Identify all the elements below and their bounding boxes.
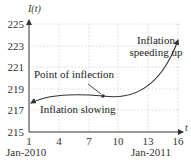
svg-text:219: 219 [8,83,25,95]
svg-text:217: 217 [8,104,25,116]
svg-text:7: 7 [86,135,92,147]
annotation-slowing: Inflation slowing [40,103,116,115]
annotation-speeding-line1: Inflation [137,34,175,46]
annotation-inflection: Point of inflection [34,68,115,80]
inflation-chart: I(t) t 225 223 221 219 217 215 1 4 7 10 … [0,0,191,162]
date-label-end: Jan-2011 [131,146,171,158]
inflection-point-marker [101,94,105,98]
svg-text:215: 215 [8,126,25,138]
svg-text:223: 223 [8,40,25,52]
y-axis-label: I(t) [27,3,41,15]
inflation-curve [31,95,103,103]
svg-text:4: 4 [56,135,62,147]
annotation-speeding-line2: speeding up [130,46,183,58]
svg-text:225: 225 [8,18,25,30]
y-tick-labels: 225 223 221 219 217 215 [8,18,25,138]
svg-text:221: 221 [8,61,25,73]
svg-text:10: 10 [113,135,125,147]
svg-text:16: 16 [173,135,185,147]
date-label-start: Jan-2010 [6,146,47,158]
x-axis-label: t [185,122,188,133]
